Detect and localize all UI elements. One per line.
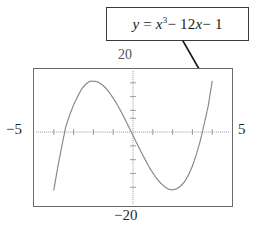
x-max-label: 5 — [238, 121, 246, 138]
graphing-calculator-figure: y = x3− 12x− 1 — [0, 0, 257, 232]
equation-callout-box: y = x3− 12x− 1 — [106, 7, 249, 41]
equals-sign: = — [143, 16, 152, 32]
y-min-label: −20 — [114, 207, 137, 224]
x-min-label: −5 — [6, 121, 22, 138]
function-plot — [34, 69, 232, 206]
y-max-label: 20 — [118, 47, 132, 63]
equation-constant: 1 — [215, 16, 223, 32]
calculator-screen — [33, 68, 233, 207]
equation-coefficient: 12 — [180, 16, 195, 32]
equation-variable: x — [156, 16, 163, 32]
equation-minus-2: − — [202, 16, 211, 32]
equation-minus-1: − — [167, 16, 176, 32]
equation-text: y = x3− 12x− 1 — [132, 15, 222, 33]
